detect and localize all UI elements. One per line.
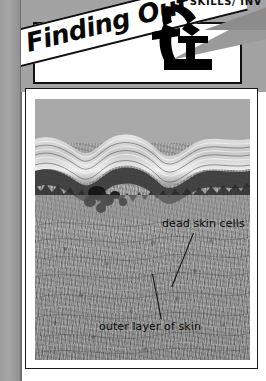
label-outer-layer-of-skin: outer layer of skin (99, 320, 201, 333)
header-banner: Finding Out (21, 0, 266, 92)
page-gutter-shadow (0, 0, 21, 381)
label-dead-skin-cells: dead skin cells (162, 217, 245, 230)
microscope-icon (152, 2, 216, 80)
skin-cross-section-photo: dead skin cells outer layer of skin inne… (35, 99, 250, 360)
scanned-textbook-page: Finding Out SKILLS/ INV (0, 0, 266, 381)
